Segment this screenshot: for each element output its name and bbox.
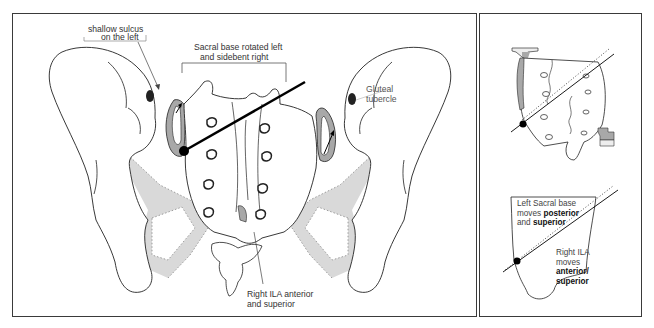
label-right-ila-moves: Right ILA moves anterior/ superior (556, 248, 590, 286)
sacral-foramen (207, 150, 216, 159)
arrow-sulcus-icon (155, 84, 160, 90)
sacral-foramen (258, 184, 267, 193)
sacrum-outline (184, 81, 317, 243)
sacral-base-bracket (182, 63, 286, 82)
sacral-foramen (262, 152, 271, 161)
label-sacral-base: Sacral base rotated left (194, 42, 282, 52)
label-left-sacral-base: Left Sacral base moves posterior and sup… (517, 199, 579, 228)
label-gluteal-tubercle: Gluteal tubercle (366, 84, 397, 104)
sacral-foramen (207, 118, 216, 127)
sacral-foramen (256, 210, 265, 219)
label-sacral-base-2: and sidebent right (200, 52, 268, 62)
sacral-foramen (260, 124, 269, 133)
sacral-foramen (204, 180, 213, 189)
label-right-ila: Right ILA anterior and superior (247, 289, 313, 309)
label-shallow-sulcus-2: on the left (101, 32, 139, 42)
right-psis-dimple (348, 93, 356, 105)
left-psis-dimple (146, 90, 154, 102)
sacral-foramen (204, 208, 213, 217)
axis-pivot-dot (179, 146, 189, 156)
coccyx-outline (211, 242, 262, 296)
